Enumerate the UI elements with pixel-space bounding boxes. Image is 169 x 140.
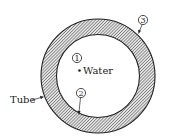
point-3-label: 3 <box>140 16 145 25</box>
water-label: Water <box>83 65 113 76</box>
tube-cross-section-diagram: 1 Water 2 3 Tube <box>0 0 169 140</box>
water-point-dot <box>78 69 81 72</box>
point-1-marker: 1 <box>72 53 81 62</box>
point-2-label: 2 <box>78 89 83 98</box>
tube-label: Tube <box>10 94 36 105</box>
point-1-label: 1 <box>74 54 79 63</box>
